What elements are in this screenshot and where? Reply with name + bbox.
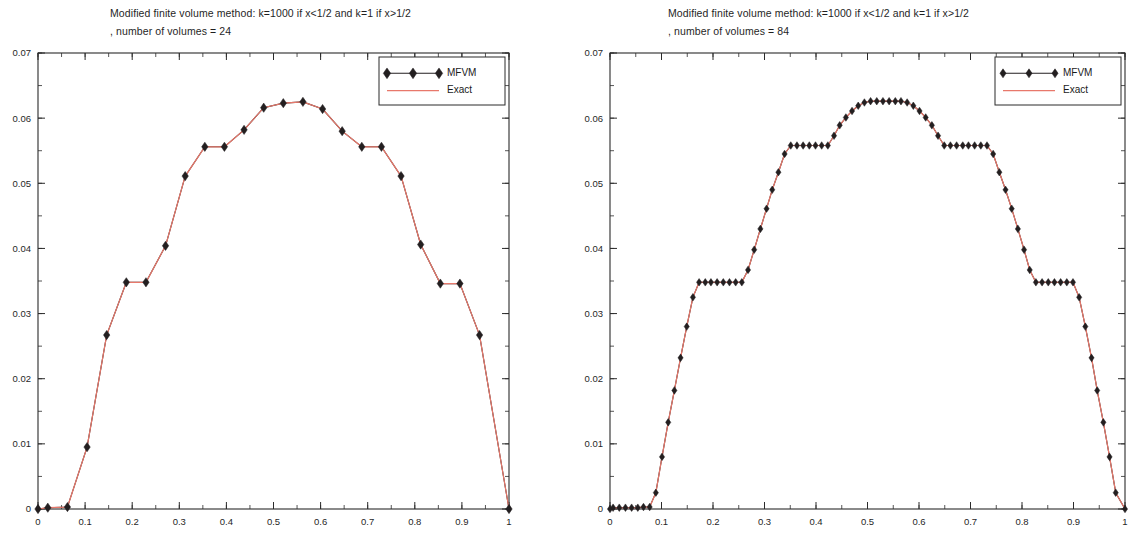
- chart-title-left-line1: Modified finite volume method: k=1000 if…: [0, 4, 565, 22]
- data-point-marker: [801, 142, 806, 150]
- x-tick-label: 0.1: [655, 516, 668, 527]
- data-point-marker: [1107, 453, 1112, 461]
- data-point-marker: [893, 97, 898, 105]
- data-point-marker: [666, 419, 671, 427]
- x-tick-label: 0.5: [267, 516, 280, 527]
- x-tick-label: 0.2: [706, 516, 719, 527]
- data-point-marker: [629, 504, 634, 512]
- y-tick-label: 0.06: [13, 113, 32, 124]
- x-tick-label: 0.4: [809, 516, 822, 527]
- data-point-marker: [794, 142, 799, 150]
- x-tick-label: 0.3: [173, 516, 186, 527]
- y-tick-label: 0.07: [13, 47, 32, 58]
- data-point-marker: [623, 504, 628, 512]
- data-point-marker: [457, 279, 463, 288]
- legend-label-exact: Exact: [1063, 84, 1088, 95]
- data-point-marker: [954, 142, 959, 150]
- y-tick-label: 0.01: [13, 438, 32, 449]
- data-point-marker: [948, 142, 953, 150]
- chart-panel-left: Modified finite volume method: k=1000 if…: [0, 0, 565, 535]
- chart-title-left-line2: , number of volumes = 24: [0, 22, 565, 40]
- data-point-marker: [874, 97, 879, 105]
- legend-box: [379, 57, 505, 105]
- series-line-exact: [38, 102, 509, 509]
- legend-box: [995, 57, 1121, 105]
- x-tick-label: 0.7: [361, 516, 374, 527]
- y-tick-label: 0.03: [585, 308, 604, 319]
- data-point-marker: [966, 142, 971, 150]
- chart-svg-left: 00.010.020.030.040.050.060.0700.10.20.30…: [0, 0, 565, 535]
- x-tick-label: 1: [1122, 516, 1127, 527]
- data-point-marker: [653, 489, 658, 497]
- data-point-marker: [770, 186, 775, 194]
- data-point-marker: [35, 504, 41, 513]
- data-point-marker: [733, 279, 738, 287]
- chart-title-right: Modified finite volume method: k=1000 if…: [566, 4, 1131, 40]
- legend-label-exact: Exact: [447, 84, 472, 95]
- data-point-marker: [813, 142, 818, 150]
- y-tick-label: 0.02: [585, 373, 604, 384]
- data-point-marker: [807, 142, 812, 150]
- data-point-marker: [997, 168, 1002, 176]
- data-point-marker: [280, 99, 286, 108]
- y-tick-label: 0.02: [13, 373, 32, 384]
- y-tick-label: 0.03: [13, 308, 32, 319]
- data-point-marker: [880, 97, 885, 105]
- y-tick-label: 0.07: [585, 47, 604, 58]
- legend-label-mfvm: MFVM: [1063, 67, 1092, 78]
- data-point-marker: [476, 330, 482, 339]
- data-point-marker: [1015, 225, 1020, 233]
- figure-page: Modified finite volume method: k=1000 if…: [0, 0, 1131, 535]
- chart-title-right-line2: , number of volumes = 84: [566, 22, 1131, 40]
- data-point-marker: [64, 502, 70, 511]
- data-point-marker: [911, 102, 916, 110]
- data-point-marker: [898, 97, 903, 105]
- x-tick-label: 0.9: [1067, 516, 1080, 527]
- data-point-marker: [1064, 279, 1069, 287]
- data-point-marker: [1083, 323, 1088, 331]
- x-tick-label: 0.2: [126, 516, 139, 527]
- data-point-marker: [764, 205, 769, 213]
- data-point-marker: [721, 279, 726, 287]
- series-line-exact: [610, 101, 1125, 509]
- data-point-marker: [1021, 246, 1026, 254]
- data-point-marker: [1095, 387, 1100, 395]
- data-point-marker: [972, 142, 977, 150]
- data-point-marker: [123, 278, 129, 287]
- data-point-marker: [708, 279, 713, 287]
- data-point-marker: [905, 99, 910, 107]
- data-point-marker: [862, 99, 867, 107]
- legend-label-mfvm: MFVM: [447, 67, 476, 78]
- data-point-marker: [703, 279, 708, 287]
- data-point-marker: [684, 323, 689, 331]
- data-point-marker: [819, 142, 824, 150]
- data-point-marker: [647, 503, 652, 511]
- chart-svg-right: 00.010.020.030.040.050.060.0700.10.20.30…: [566, 0, 1131, 535]
- data-point-marker: [1039, 279, 1044, 287]
- y-tick-label: 0: [26, 503, 31, 514]
- data-point-marker: [1101, 419, 1106, 427]
- chart-title-left: Modified finite volume method: k=1000 if…: [0, 4, 565, 40]
- data-point-marker: [672, 387, 677, 395]
- data-point-marker: [776, 168, 781, 176]
- x-tick-label: 0.7: [964, 516, 977, 527]
- data-point-marker: [715, 279, 720, 287]
- data-point-marker: [1070, 279, 1075, 287]
- data-point-marker: [359, 142, 365, 151]
- data-point-marker: [727, 279, 732, 287]
- data-point-marker: [45, 503, 51, 512]
- chart-panel-right: Modified finite volume method: k=1000 if…: [566, 0, 1131, 535]
- data-point-marker: [300, 97, 306, 106]
- x-tick-label: 0.9: [455, 516, 468, 527]
- data-point-marker: [1089, 354, 1094, 362]
- x-tick-label: 0: [35, 516, 40, 527]
- data-point-marker: [978, 142, 983, 150]
- x-tick-label: 0.8: [1015, 516, 1028, 527]
- y-tick-label: 0.04: [13, 243, 32, 254]
- data-point-marker: [678, 354, 683, 362]
- data-point-marker: [506, 504, 512, 513]
- data-point-marker: [752, 246, 757, 254]
- x-tick-label: 0.4: [220, 516, 233, 527]
- chart-title-right-line1: Modified finite volume method: k=1000 if…: [566, 4, 1131, 22]
- y-tick-label: 0: [598, 503, 603, 514]
